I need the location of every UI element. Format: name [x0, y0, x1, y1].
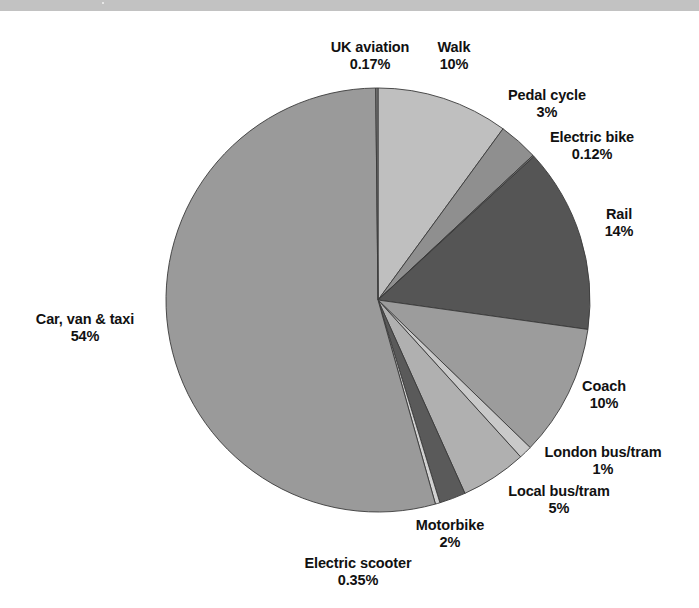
pie-label-name: Walk: [421, 39, 487, 56]
pie-label-name: Motorbike: [405, 517, 495, 534]
top-gray-bar: [0, 0, 699, 11]
pie-label-electric-bike: Electric bike 0.12%: [536, 129, 648, 163]
pie-label-value: 5%: [495, 500, 623, 517]
pie-label-name: UK aviation: [311, 39, 429, 56]
pie-label-value: 0.35%: [285, 572, 431, 589]
pie-label-name: Pedal cycle: [496, 87, 598, 104]
pie-label-value: 14%: [591, 223, 647, 240]
top-bar-speck: [102, 2, 104, 4]
pie-label-name: Local bus/tram: [495, 483, 623, 500]
pie-label-value: 3%: [496, 104, 598, 121]
pie-label-name: Car, van & taxi: [19, 311, 151, 328]
pie-label-pedal-cycle: Pedal cycle 3%: [496, 87, 598, 121]
pie-label-name: Electric scooter: [285, 555, 431, 572]
pie-label-value: 2%: [405, 534, 495, 551]
pie-label-london-bus-tram: London bus/tram 1%: [533, 444, 673, 478]
pie-label-value: 10%: [421, 56, 487, 73]
pie-label-value: 54%: [19, 328, 151, 345]
pie-label-rail: Rail 14%: [591, 206, 647, 240]
pie-slice-group: [166, 88, 590, 512]
pie-label-local-bus-tram: Local bus/tram 5%: [495, 483, 623, 517]
pie-label-name: Coach: [567, 378, 641, 395]
pie-label-uk-aviation: UK aviation 0.17%: [311, 39, 429, 73]
pie-label-electric-scooter: Electric scooter 0.35%: [285, 555, 431, 589]
pie-label-value: 0.17%: [311, 56, 429, 73]
pie-label-name: London bus/tram: [533, 444, 673, 461]
pie-label-value: 0.12%: [536, 146, 648, 163]
pie-label-coach: Coach 10%: [567, 378, 641, 412]
pie-label-motorbike: Motorbike 2%: [405, 517, 495, 551]
pie-label-car-van-taxi: Car, van & taxi 54%: [19, 311, 151, 345]
pie-chart-area: UK aviation 0.17% Walk 10% Pedal cycle 3…: [0, 11, 699, 608]
pie-label-walk: Walk 10%: [421, 39, 487, 73]
pie-label-name: Rail: [591, 206, 647, 223]
pie-label-name: Electric bike: [536, 129, 648, 146]
pie-label-value: 10%: [567, 395, 641, 412]
pie-label-value: 1%: [533, 461, 673, 478]
